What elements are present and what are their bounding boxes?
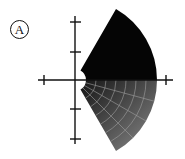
lower-shaded-region (81, 80, 158, 151)
polar-region-diagram (0, 0, 185, 159)
upper-solid-region (81, 9, 158, 80)
